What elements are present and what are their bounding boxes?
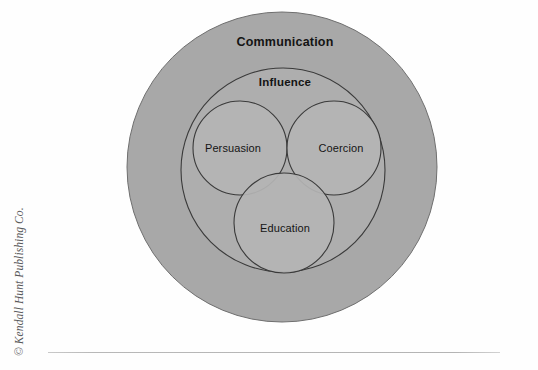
label-communication: Communication — [236, 35, 333, 49]
bottom-divider — [48, 352, 500, 353]
label-coercion: Coercion — [319, 142, 364, 154]
label-influence: Influence — [259, 76, 311, 88]
venn-diagram: Communication Influence Persuasion Coerc… — [0, 0, 538, 370]
label-persuasion: Persuasion — [205, 142, 261, 154]
label-education: Education — [260, 222, 310, 234]
copyright-credit: © Kendall Hunt Publishing Co. — [9, 166, 29, 356]
figure-root: Communication Influence Persuasion Coerc… — [0, 0, 538, 370]
